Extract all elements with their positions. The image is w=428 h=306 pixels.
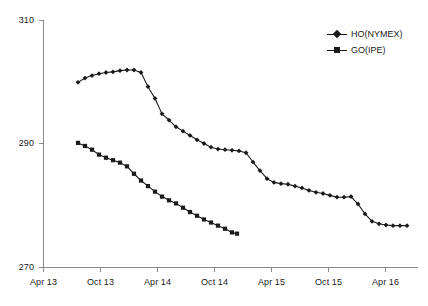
data-point-marker-diamond [321, 191, 326, 196]
data-point-marker-square [76, 141, 80, 145]
data-point-marker-diamond [90, 73, 95, 78]
data-point-marker-square [223, 227, 227, 231]
data-point-marker-diamond [237, 149, 242, 154]
data-point-marker-square [125, 164, 129, 168]
data-point-marker-diamond [342, 195, 347, 200]
data-point-marker-square [83, 144, 87, 148]
series-layer [76, 68, 410, 236]
data-point-marker-diamond [132, 68, 137, 73]
y-axis-label-270: 270 [8, 262, 34, 272]
data-point-marker-diamond [209, 145, 214, 150]
data-point-marker-square [146, 184, 150, 188]
data-point-marker-diamond [307, 188, 312, 193]
data-point-marker-diamond [300, 186, 305, 191]
data-point-marker-square [111, 158, 115, 162]
data-point-marker-diamond [286, 182, 291, 187]
data-point-marker-diamond [97, 71, 102, 76]
data-point-marker-diamond [139, 70, 144, 75]
data-point-marker-diamond [146, 84, 151, 89]
data-point-marker-diamond [405, 223, 410, 228]
data-point-marker-diamond [272, 180, 277, 185]
data-point-marker-diamond [230, 148, 235, 153]
data-point-marker-square [202, 217, 206, 221]
data-point-marker-square [188, 210, 192, 214]
legend-marker-square-icon [327, 45, 347, 55]
data-point-marker-diamond [125, 68, 130, 73]
data-point-marker-square [153, 190, 157, 194]
x-axis-label-apr-14: Apr 14 [129, 277, 186, 287]
data-point-marker-square [181, 206, 185, 210]
series-go-ipe [76, 141, 239, 236]
data-point-marker-square [235, 232, 239, 236]
legend-label-ho-nymex: HO(NYMEX) [351, 29, 403, 39]
data-point-marker-diamond [216, 147, 221, 152]
data-point-marker-diamond [398, 223, 403, 228]
data-point-marker-square [209, 220, 213, 224]
x-axis-label-apr-15: Apr 15 [243, 277, 300, 287]
legend-marker-diamond-icon [327, 29, 347, 39]
x-axis-label-oct-13: Oct 13 [72, 277, 129, 287]
data-point-marker-square [132, 172, 136, 176]
data-point-marker-square [160, 195, 164, 199]
line-chart: 310 290 270 Apr 13 Oct 13 Apr 14 Oct 14 … [0, 0, 428, 306]
legend-label-go-ipe: GO(IPE) [351, 45, 386, 55]
legend-item-ho-nymex[interactable]: HO(NYMEX) [327, 27, 427, 41]
data-point-marker-diamond [111, 69, 116, 74]
data-point-marker-diamond [118, 68, 123, 73]
data-point-marker-diamond [293, 184, 298, 189]
x-axis-label-apr-13: Apr 13 [15, 277, 72, 287]
data-point-marker-square [167, 198, 171, 202]
chart-legend: HO(NYMEX) GO(IPE) [327, 27, 427, 59]
data-point-marker-diamond [153, 96, 158, 101]
x-axis-label-oct-14: Oct 14 [186, 277, 243, 287]
data-point-marker-diamond [202, 141, 207, 146]
series-line-path [78, 143, 237, 234]
data-point-marker-diamond [328, 193, 333, 198]
data-point-marker-diamond [314, 190, 319, 195]
data-point-marker-square [195, 214, 199, 218]
y-axis-label-290: 290 [8, 138, 34, 148]
data-point-marker-diamond [223, 147, 228, 152]
data-point-marker-square [216, 224, 220, 228]
data-point-marker-diamond [335, 195, 340, 200]
data-point-marker-diamond [384, 223, 389, 228]
data-point-marker-square [118, 161, 122, 165]
data-point-marker-diamond [391, 223, 396, 228]
x-axis-label-oct-15: Oct 15 [300, 277, 357, 287]
legend-item-go-ipe[interactable]: GO(IPE) [327, 43, 427, 57]
y-axis-label-310: 310 [8, 15, 34, 25]
x-axis-label-apr-16: Apr 16 [357, 277, 414, 287]
data-point-marker-square [174, 201, 178, 205]
data-point-marker-diamond [279, 181, 284, 186]
data-point-marker-square [139, 178, 143, 182]
data-point-marker-square [230, 230, 234, 234]
data-point-marker-diamond [104, 70, 109, 75]
data-point-marker-square [104, 156, 108, 160]
data-point-marker-square [90, 148, 94, 152]
series-ho-nymex [76, 68, 410, 228]
data-point-marker-square [97, 153, 101, 157]
data-point-marker-diamond [377, 221, 382, 226]
